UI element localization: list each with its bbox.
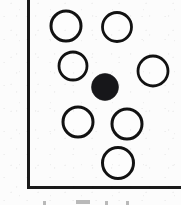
atom-open-6: [112, 109, 142, 139]
mark-4: [126, 201, 129, 205]
atom-open-2: [103, 13, 132, 42]
mark-2: [76, 200, 90, 204]
atom-open-4: [138, 56, 168, 86]
atom-open-3: [59, 52, 87, 80]
central-atom-group: [92, 74, 119, 101]
mark-3: [105, 201, 108, 205]
atom-open-1: [51, 11, 81, 41]
structure-diagram: [0, 0, 181, 205]
mark-1: [43, 201, 46, 205]
atom-open-5: [63, 107, 93, 137]
atom-open-7: [103, 148, 134, 179]
figure-container: [0, 0, 181, 205]
atom-filled-1: [92, 74, 119, 101]
